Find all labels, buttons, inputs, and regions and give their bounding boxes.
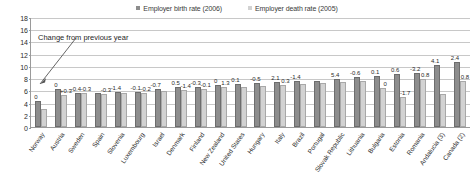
bar-change-label-birth: 0	[34, 94, 37, 100]
x-axis-label-cell: Luxembourg	[130, 129, 150, 178]
bar-death-rate	[81, 93, 87, 127]
bar-death-rate	[420, 79, 426, 127]
bar-change-label-birth: -1.4	[290, 74, 300, 80]
bar-group: 0.1	[231, 18, 251, 127]
bar-death-rate	[141, 93, 147, 127]
x-axis-label-cell: Denmark	[170, 129, 190, 178]
bar-group: 2.10.3	[270, 18, 290, 127]
x-axis-label-cell: Lithuania	[350, 129, 370, 178]
bar-change-label-death: -1.4	[180, 83, 190, 89]
x-axis-tick-label: Austria	[48, 131, 65, 152]
bar-change-label-death: -0.3	[101, 87, 111, 93]
bar-death-rate	[241, 87, 247, 127]
x-axis-label-cell: Brazil	[290, 129, 310, 178]
bar-group: -1.4	[290, 18, 310, 127]
x-axis-tick-label: Bulgaria	[366, 131, 385, 155]
bar-change-label-birth: -0.3	[190, 80, 200, 86]
bar-group	[310, 18, 330, 127]
bar-change-label-birth: -0.5	[250, 76, 260, 82]
x-axis-tick-label: Spain	[90, 131, 105, 149]
bar-group: 01.3	[211, 18, 231, 127]
x-axis-label-cell: Sweden	[70, 129, 90, 178]
bar-death-rate	[440, 94, 446, 127]
bar-group: -0.6	[350, 18, 370, 127]
bar-death-rate	[260, 86, 266, 127]
bar-death-rate	[61, 95, 67, 127]
legend-item-birth-rate: Employer birth rate (2006)	[136, 5, 222, 12]
bar-death-rate	[300, 84, 306, 127]
x-axis-tick-label: Brazil	[291, 131, 306, 148]
bar-change-label-birth: -3.2	[410, 66, 420, 72]
bar-change-label-birth: -1.4	[111, 85, 121, 91]
bar-change-label-death: 0.3	[281, 78, 289, 84]
legend-swatch-birth-rate	[136, 6, 140, 10]
x-axis-labels: NorwayAustriaSwedenSpainSloveniaLuxembou…	[30, 129, 470, 178]
chart-legend: Employer birth rate (2006) Employer deat…	[0, 2, 474, 14]
bar-death-rate	[340, 82, 346, 127]
bar-death-rate	[201, 89, 207, 127]
bar-group: -0.5	[250, 18, 270, 127]
x-axis-label-cell: Hungary	[250, 129, 270, 178]
bar-change-label-birth: -0.6	[350, 70, 360, 76]
bar-group: -0.1-0.2	[131, 18, 151, 127]
x-axis-label-cell: Canada (2)	[450, 129, 470, 178]
y-axis-tick-label: 16	[20, 27, 28, 34]
bar-change-label-birth: 0.6	[391, 67, 399, 73]
bar-change-label-birth: -0.1	[131, 85, 141, 91]
bar-change-label-death: -0.1	[200, 82, 210, 88]
chart-container: Employer birth rate (2006) Employer deat…	[0, 0, 474, 178]
x-axis-label-cell: Norway	[30, 129, 50, 178]
y-axis-tick-label: 8	[24, 76, 28, 83]
bar-change-label-birth: -0.7	[151, 82, 161, 88]
y-axis-tick-label: 0	[24, 125, 28, 132]
bar-death-rate	[41, 109, 47, 127]
y-axis-tick-label: 14	[20, 39, 28, 46]
bar-group: -0.3-0.1	[191, 18, 211, 127]
bar-change-label-death: 0	[383, 81, 386, 87]
annotation-arrow-icon	[30, 36, 90, 88]
bar-change-label-death: -0.2	[141, 86, 151, 92]
bar-group: -0.7	[151, 18, 171, 127]
x-axis-tick-label: Norway	[27, 131, 45, 153]
bar-death-rate	[400, 97, 406, 127]
bar-group: 4.1	[430, 18, 450, 127]
bar-group: 0.5-1.4	[171, 18, 191, 127]
x-axis-label-cell: Italy	[270, 129, 290, 178]
y-axis-tick-label: 6	[24, 88, 28, 95]
x-axis-label-cell: Bulgaria	[370, 129, 390, 178]
bar-change-label-birth: 2.1	[271, 75, 279, 81]
bar-death-rate	[360, 81, 366, 127]
bar-death-rate	[101, 94, 107, 127]
bar-death-rate	[320, 83, 326, 127]
y-axis-tick-label: 10	[20, 63, 28, 70]
bar-death-rate	[121, 93, 127, 127]
bar-change-label-birth: 5.4	[331, 72, 339, 78]
legend-label-death-rate: Employer death rate (2005)	[255, 5, 338, 12]
x-axis-tick-label: Finland	[188, 131, 206, 152]
bar-change-label-birth: 0.5	[171, 80, 179, 86]
legend-label-birth-rate: Employer birth rate (2006)	[143, 5, 222, 12]
bar-death-rate	[460, 81, 466, 127]
x-axis-tick-label: Estonia	[388, 131, 406, 153]
y-axis-tick-label: 12	[20, 51, 28, 58]
x-axis-tick-label: Israel	[151, 131, 166, 148]
x-axis-label-cell: Austria	[50, 129, 70, 178]
bar-death-rate	[380, 88, 386, 127]
x-axis-tick-label: Italy	[273, 131, 286, 145]
x-axis-label-cell: Spain	[90, 129, 110, 178]
bar-change-label-birth: 4.1	[431, 58, 439, 64]
bar-death-rate	[161, 91, 167, 127]
bar-group: 5.4	[330, 18, 350, 127]
bar-change-label-birth: 0	[214, 78, 217, 84]
bar-change-label-death: -1.7	[400, 90, 410, 96]
x-axis-tick-label: Portugal	[306, 131, 326, 155]
bar-change-label-death: 0.8	[421, 72, 429, 78]
bar-death-rate	[181, 90, 187, 127]
bar-group: 0.6-1.7	[390, 18, 410, 127]
x-axis-tick-label: Sweden	[67, 131, 86, 154]
legend-swatch-death-rate	[248, 6, 252, 10]
bar-death-rate	[221, 87, 227, 127]
bar-group: 0.10	[370, 18, 390, 127]
bar-change-label-death: 0.8	[461, 74, 469, 80]
bar-change-label-death: 1.3	[221, 80, 229, 86]
